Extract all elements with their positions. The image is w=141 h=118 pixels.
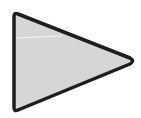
play-icon-container[interactable] [0, 0, 141, 118]
play-triangle-shape [14, 13, 133, 110]
play-icon [0, 0, 141, 118]
